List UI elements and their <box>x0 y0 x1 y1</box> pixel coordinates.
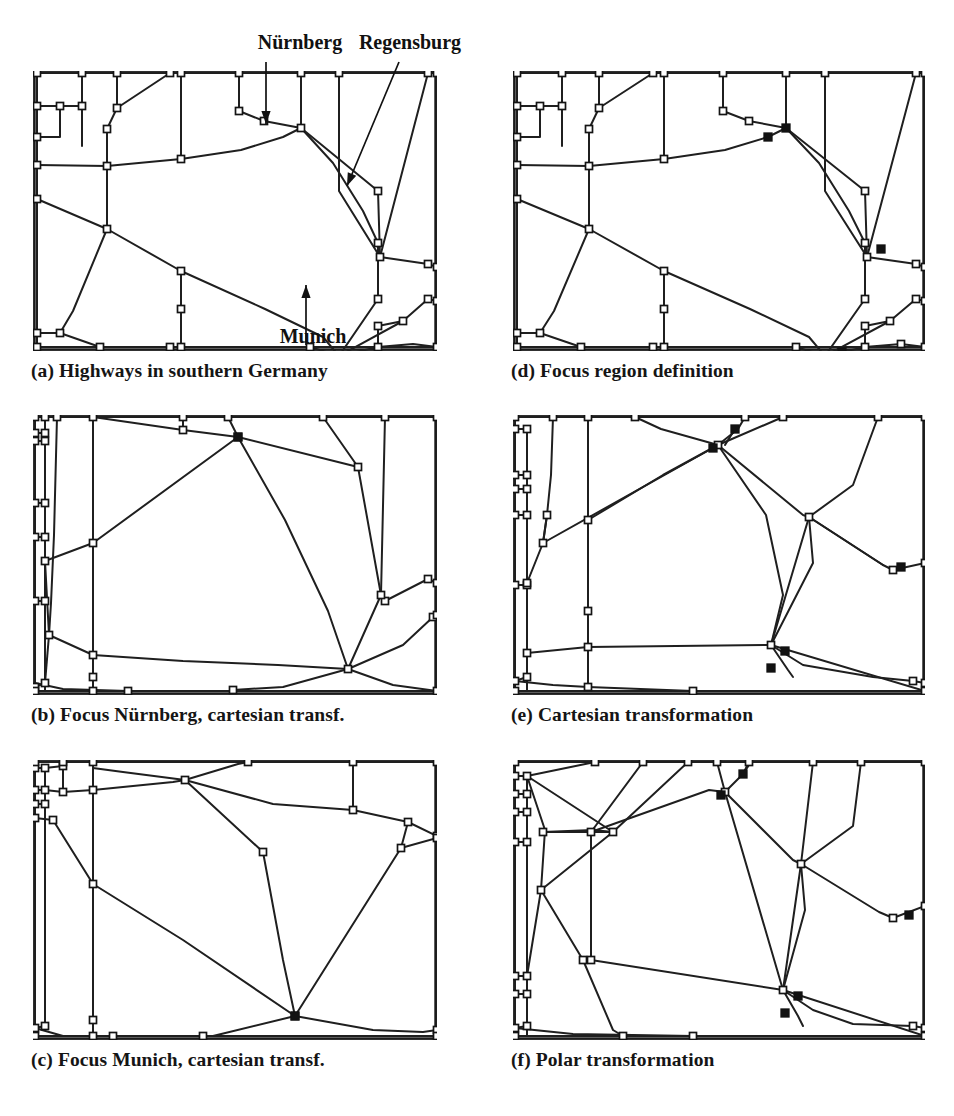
focus-node <box>794 992 802 1000</box>
graph-node <box>585 644 592 651</box>
graph-edge <box>185 762 248 780</box>
focus-node <box>764 133 772 141</box>
graph-edge <box>53 820 93 884</box>
graph-node <box>514 162 521 169</box>
graph-node <box>34 134 41 141</box>
graph-node <box>890 915 897 922</box>
graph-edge <box>543 445 718 543</box>
graph-node <box>90 787 97 794</box>
graph-node <box>33 598 39 605</box>
graph-node <box>524 486 531 493</box>
graph-edge <box>591 762 643 832</box>
graph-node <box>524 472 531 479</box>
graph-node <box>33 801 39 808</box>
graph-edge <box>718 417 783 445</box>
graph-node <box>862 296 869 303</box>
graph-node <box>42 534 49 541</box>
graph-edge <box>801 762 813 864</box>
graph-node <box>178 306 185 313</box>
graph-node <box>524 773 531 780</box>
graph-node <box>640 760 647 766</box>
graph-node <box>434 688 438 695</box>
graph-node <box>245 760 252 766</box>
focus-node-group-f <box>717 770 913 1017</box>
graph-edge <box>613 762 688 832</box>
graph-edge <box>867 257 916 264</box>
graph-node <box>862 344 869 351</box>
graph-node <box>382 415 389 421</box>
graph-node <box>768 642 775 649</box>
graph-edge <box>60 229 107 333</box>
graph-node <box>578 344 585 351</box>
graph-node <box>355 464 362 471</box>
graph-node <box>875 415 882 421</box>
graph-node <box>890 567 897 574</box>
graph-node <box>538 887 545 894</box>
graph-node <box>585 415 592 421</box>
graph-node <box>33 1033 39 1040</box>
graph-canvas-f <box>513 760 925 1040</box>
graph-node <box>922 688 926 695</box>
graph-node <box>513 582 519 589</box>
graph-edge <box>635 417 718 445</box>
graph-node <box>46 632 53 639</box>
graph-edge <box>599 73 653 108</box>
graph-node <box>42 680 49 687</box>
graph-node <box>34 344 41 351</box>
graph-edge <box>381 417 385 595</box>
panel-e <box>513 415 925 695</box>
graph-node <box>862 240 869 247</box>
graph-node <box>524 839 531 846</box>
graph-node <box>822 71 829 77</box>
graph-node <box>405 819 412 826</box>
graph-node <box>513 512 519 519</box>
graph-node <box>336 71 343 77</box>
graph-edge <box>783 864 801 990</box>
focus-node <box>234 433 242 441</box>
graph-node <box>350 760 357 766</box>
graph-node <box>90 674 97 681</box>
graph-node <box>42 558 49 565</box>
graph-node <box>178 156 185 163</box>
graph-edge <box>107 128 301 166</box>
graph-edge <box>93 417 238 437</box>
graph-node <box>514 71 521 77</box>
figure-container: (a) Highways in southern Germany(d) Focu… <box>0 0 954 1116</box>
graph-node <box>42 1023 49 1030</box>
graph-node <box>34 162 41 169</box>
graph-node <box>434 344 438 351</box>
graph-edge <box>515 1028 693 1036</box>
graph-node <box>585 684 592 691</box>
graph-node <box>42 765 49 772</box>
focus-node <box>739 770 747 778</box>
graph-edge <box>380 257 428 264</box>
graph-node <box>514 196 521 203</box>
graph-node <box>746 760 753 766</box>
graph-node <box>398 845 405 852</box>
focus-node <box>709 444 717 452</box>
graph-node <box>913 71 920 77</box>
graph-node <box>54 415 61 421</box>
edge-group-c <box>35 762 437 1036</box>
graph-node <box>434 298 438 305</box>
graph-edge <box>867 73 916 257</box>
graph-edge <box>348 669 437 691</box>
graph-node <box>588 829 595 836</box>
graph-node <box>537 103 544 110</box>
graph-node <box>345 666 352 673</box>
graph-node <box>513 839 519 846</box>
graph-node <box>114 105 121 112</box>
graph-node <box>434 415 438 421</box>
graph-node <box>90 415 97 421</box>
graph-node <box>60 789 67 796</box>
graph-node <box>34 196 41 203</box>
panel-frame-f <box>514 761 923 1038</box>
graph-node <box>425 576 432 583</box>
graph-node <box>377 254 384 261</box>
graph-node <box>33 438 39 445</box>
graph-node <box>33 500 39 507</box>
graph-node <box>42 430 49 437</box>
graph-node <box>922 415 926 421</box>
graph-edge <box>591 790 725 832</box>
graph-node <box>922 760 926 766</box>
